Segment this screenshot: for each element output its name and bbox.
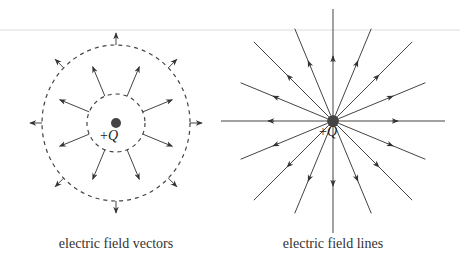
diagram-canvas	[0, 0, 460, 264]
field-line	[339, 83, 426, 119]
inner-field-vector	[127, 67, 139, 97]
left-charge-label: +Q	[100, 128, 118, 144]
field-line	[335, 29, 371, 116]
inner-field-vector	[127, 150, 139, 180]
inner-field-vector	[143, 134, 173, 146]
field-line-arrow	[388, 96, 394, 98]
point-charge	[111, 118, 121, 128]
inner-field-vector	[93, 67, 105, 97]
field-line-arrow	[308, 176, 310, 182]
outer-field-vector	[168, 59, 176, 67]
field-vectors-diagram	[30, 33, 202, 213]
field-line-arrow	[356, 176, 358, 182]
inner-field-vector	[60, 134, 90, 146]
field-line-arrow	[273, 144, 279, 146]
inner-field-vector	[143, 100, 173, 112]
inner-field-vector	[93, 150, 105, 180]
field-line-arrow	[287, 75, 291, 79]
field-line-arrow	[287, 163, 291, 167]
field-line-arrow	[375, 75, 379, 79]
caption-field-lines: electric field lines	[283, 236, 383, 252]
field-line	[295, 29, 331, 116]
field-line-arrow	[375, 163, 379, 167]
field-line	[241, 123, 328, 159]
outer-field-vector	[168, 178, 176, 186]
field-line-arrow	[308, 61, 310, 67]
field-lines-diagram	[221, 9, 445, 233]
caption-field-vectors: electric field vectors	[59, 236, 173, 252]
field-line-arrow	[356, 61, 358, 67]
field-line	[241, 83, 328, 119]
field-line	[335, 127, 371, 214]
outer-field-vector	[55, 59, 63, 67]
inner-field-vector	[60, 100, 90, 112]
outer-field-vector	[55, 178, 63, 186]
field-line	[339, 123, 426, 159]
field-line-arrow	[388, 144, 394, 146]
right-charge-label: +Q	[319, 124, 337, 140]
field-line-arrow	[273, 96, 279, 98]
